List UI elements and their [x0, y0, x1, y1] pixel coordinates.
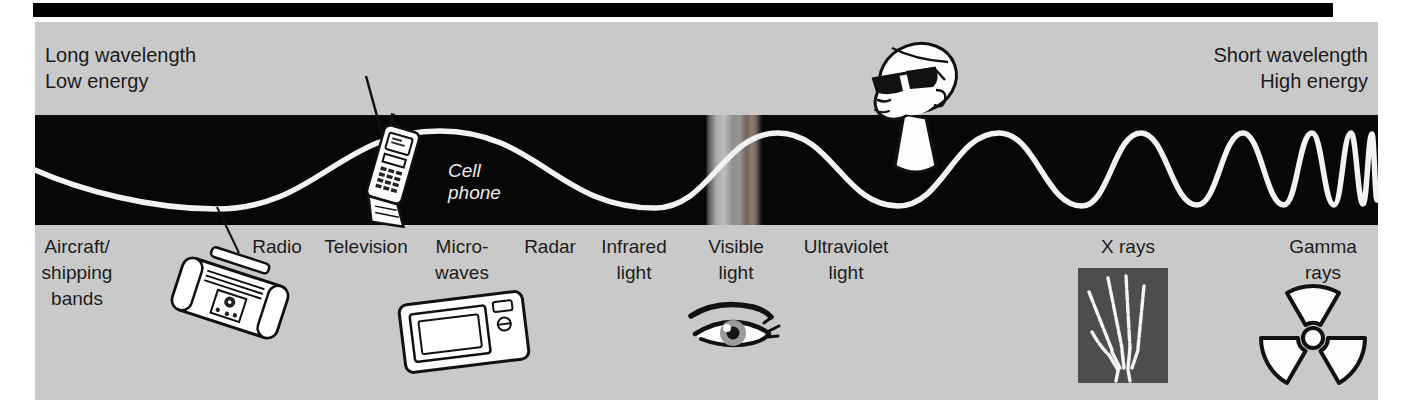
label-radar: Radar [524, 234, 576, 260]
short-wavelength-caption: Short wavelength High energy [1213, 42, 1368, 94]
eye-icon [691, 304, 779, 346]
cell-phone-label-line: phone [448, 182, 501, 204]
caption-line: Short wavelength [1213, 42, 1368, 68]
label-aircraft-shipping-bands: Aircraft/ shipping bands [42, 234, 113, 312]
label-line: shipping [42, 260, 113, 286]
label-television: Television [324, 234, 407, 260]
label-line: Gamma [1289, 234, 1357, 260]
label-line: Radar [524, 234, 576, 260]
diagram-graphics [0, 0, 1408, 417]
microwave-oven-icon [398, 291, 529, 374]
caption-line: Low energy [45, 68, 196, 94]
label-line: Ultraviolet [804, 234, 888, 260]
long-wavelength-caption: Long wavelength Low energy [45, 42, 196, 94]
label-microwaves: Micro- waves [435, 234, 489, 286]
cell-phone-label: Cell phone [448, 160, 501, 204]
label-ultraviolet-light: Ultraviolet light [804, 234, 888, 286]
label-line: rays [1289, 260, 1357, 286]
label-line: Radio [252, 234, 302, 260]
label-line: bands [42, 286, 113, 312]
label-line: Visible [708, 234, 764, 260]
label-radio: Radio [252, 234, 302, 260]
em-spectrum-diagram: Long wavelength Low energy Short wavelen… [0, 0, 1408, 417]
label-gamma-rays: Gamma rays [1289, 234, 1357, 286]
caption-line: High energy [1213, 68, 1368, 94]
label-line: Television [324, 234, 407, 260]
label-line: waves [435, 260, 489, 286]
label-line: Micro- [435, 234, 489, 260]
label-line: Aircraft/ [42, 234, 113, 260]
label-line: light [601, 260, 666, 286]
caption-line: Long wavelength [45, 42, 196, 68]
radiation-symbol-icon [1261, 286, 1365, 383]
label-infrared-light: Infrared light [601, 234, 666, 286]
label-visible-light: Visible light [708, 234, 764, 286]
label-line: X rays [1101, 234, 1155, 260]
label-x-rays: X rays [1101, 234, 1155, 260]
xray-hand-image [1078, 268, 1168, 383]
cell-phone-label-line: Cell [448, 160, 501, 182]
label-line: light [708, 260, 764, 286]
label-line: light [804, 260, 888, 286]
label-line: Infrared [601, 234, 666, 260]
